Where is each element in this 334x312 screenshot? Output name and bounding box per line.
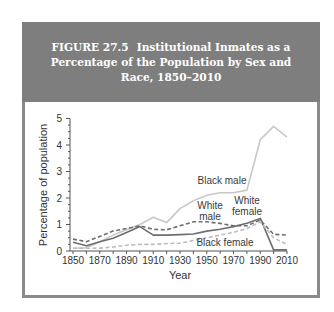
label-black-female: Black female (196, 237, 254, 248)
x-tick-label: 1970 (222, 255, 245, 266)
y-tick-label: 4 (56, 140, 62, 151)
x-tick-label: 1950 (196, 255, 219, 266)
series-lines (73, 126, 287, 249)
x-axis-title: Year (169, 269, 192, 281)
label-white-male-line1: White (197, 200, 223, 211)
x-tick-label: 1890 (115, 255, 138, 266)
y-axis-title: Percentage of population (37, 124, 49, 246)
label-black-male: Black male (198, 175, 247, 186)
label-white-female-line1: White (234, 195, 260, 206)
label-white-female-line2: female (232, 206, 262, 217)
x-tick-label: 1850 (62, 255, 85, 266)
x-tick-label: 1870 (89, 255, 112, 266)
y-tick-label: 1 (56, 219, 62, 230)
x-tick-label: 1990 (249, 255, 272, 266)
label-white-male-line2: male (199, 211, 221, 222)
x-tick-label: 1910 (142, 255, 165, 266)
y-tick-label: 2 (56, 193, 62, 204)
line-chart: 0123451850187018901910193019501970199020… (0, 0, 334, 312)
y-tick-label: 5 (56, 113, 62, 124)
y-tick-label: 3 (56, 166, 62, 177)
x-tick-label: 2010 (276, 255, 299, 266)
series-black-male (73, 126, 287, 248)
x-tick-label: 1930 (169, 255, 192, 266)
